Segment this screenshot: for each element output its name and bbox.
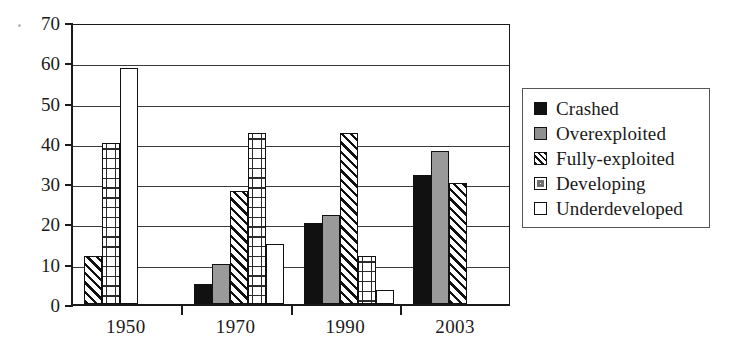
bar-1950-underdeveloped — [120, 68, 138, 304]
x-tick-mark-1 — [181, 306, 183, 315]
legend: Crashed Overexploited Fully-exploited De… — [522, 88, 710, 228]
x-tick-mark-3 — [400, 306, 402, 315]
legend-label-overexploited: Overexploited — [556, 124, 666, 143]
legend-item-developing[interactable]: Developing — [534, 171, 709, 196]
legend-label-fully-exploited: Fully-exploited — [556, 149, 675, 168]
bar-1990-fully-exploited — [340, 133, 358, 304]
y-tick-label-50: 50 — [0, 95, 60, 114]
y-tick-label-70: 70 — [0, 14, 60, 33]
x-axis-label-1990: 1990 — [291, 317, 401, 336]
y-tick-label-40: 40 — [0, 135, 60, 154]
y-tick-label-20: 20 — [0, 216, 60, 235]
gridline-50 — [73, 106, 509, 107]
bar-1950-developing — [102, 143, 120, 304]
y-tick-label-30: 30 — [0, 175, 60, 194]
legend-label-crashed: Crashed — [556, 99, 619, 118]
legend-item-overexploited[interactable]: Overexploited — [534, 121, 709, 146]
y-tick-label-60: 60 — [0, 54, 60, 73]
bar-2003-crashed — [413, 175, 431, 304]
x-tick-mark-2 — [291, 306, 293, 315]
bar-2003-fully-exploited — [449, 183, 467, 304]
y-tick-label-10: 10 — [0, 256, 60, 275]
bar-1990-crashed — [304, 223, 322, 304]
x-axis-label-1970: 1970 — [181, 317, 291, 336]
gridline-40 — [73, 146, 509, 147]
bar-1970-fully-exploited — [230, 191, 248, 304]
bar-1970-developing — [248, 133, 266, 304]
y-tick-label-0: 0 — [0, 296, 60, 315]
legend-swatch-fully-exploited-icon — [534, 152, 547, 165]
legend-label-underdeveloped: Underdeveloped — [556, 199, 683, 218]
legend-item-fully-exploited[interactable]: Fully-exploited — [534, 146, 709, 171]
plot-area — [71, 24, 510, 306]
legend-item-underdeveloped[interactable]: Underdeveloped — [534, 196, 709, 221]
bar-chart: 010203040506070 1950197019902003 Crashed… — [0, 0, 743, 352]
legend-label-developing: Developing — [556, 174, 646, 193]
bar-1970-underdeveloped — [266, 244, 284, 304]
legend-item-crashed[interactable]: Crashed — [534, 96, 709, 121]
bar-1950-fully-exploited — [84, 256, 102, 304]
bar-1990-overexploited — [322, 215, 340, 304]
bar-1990-developing — [358, 256, 376, 304]
bar-1970-overexploited — [212, 264, 230, 304]
x-axis-label-2003: 2003 — [400, 317, 510, 336]
legend-swatch-underdeveloped-icon — [534, 202, 547, 215]
legend-swatch-developing-icon — [534, 177, 547, 190]
x-axis-label-1950: 1950 — [71, 317, 181, 336]
legend-swatch-overexploited-icon — [534, 127, 547, 140]
bar-2003-overexploited — [431, 151, 449, 304]
legend-swatch-crashed-icon — [534, 102, 547, 115]
bar-1970-crashed — [194, 284, 212, 304]
gridline-60 — [73, 65, 509, 66]
bar-1990-underdeveloped — [376, 290, 394, 304]
